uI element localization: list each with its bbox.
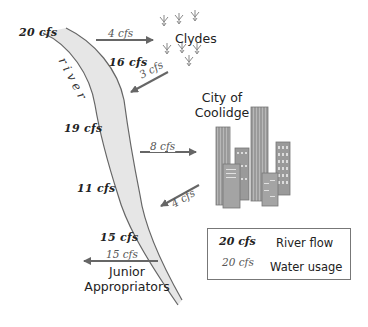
building xyxy=(262,173,278,206)
plant-icon xyxy=(160,15,168,26)
city-label-line1: City of xyxy=(192,90,252,105)
junior-label-line1: Junior xyxy=(82,264,172,279)
river-flow-label: 19 cfs xyxy=(64,122,103,135)
river-flow-label: 20 cfs xyxy=(19,26,58,39)
usage-label: 4 cfs xyxy=(108,27,133,39)
clydes-label: Clydes xyxy=(175,31,217,46)
city-label: City of Coolidge xyxy=(192,90,252,120)
river-flow-label: 11 cfs xyxy=(77,182,116,195)
usage-label: 15 cfs xyxy=(106,248,138,260)
river-flow-label: 15 cfs xyxy=(100,231,139,244)
plant-icon xyxy=(191,10,199,21)
legend: 20 cfs River flow 20 cfs Water usage xyxy=(207,228,351,280)
building xyxy=(223,164,240,208)
legend-flow-label: River flow xyxy=(276,236,333,250)
legend-flow-sample: 20 cfs xyxy=(219,235,256,248)
legend-usage-sample: 20 cfs xyxy=(222,256,254,268)
plant-icon xyxy=(175,13,183,24)
legend-usage-label: Water usage xyxy=(270,260,342,274)
city-buildings-icon xyxy=(216,107,290,208)
junior-appropriators-label: Junior Appropriators xyxy=(82,264,172,294)
usage-label: 8 cfs xyxy=(150,140,175,152)
plant-icon xyxy=(185,55,193,66)
junior-label-line2: Appropriators xyxy=(82,279,172,294)
plant-icon xyxy=(163,43,171,54)
city-label-line2: Coolidge xyxy=(192,105,252,120)
